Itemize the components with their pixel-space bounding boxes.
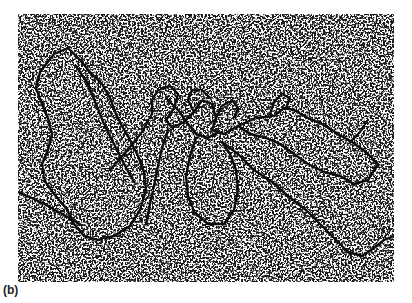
micrograph-image bbox=[18, 14, 394, 282]
panel-label: (b) bbox=[3, 283, 18, 297]
electron-micrograph bbox=[18, 14, 394, 282]
